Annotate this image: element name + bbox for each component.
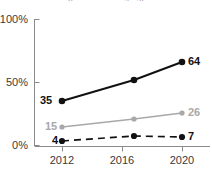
series-1-point xyxy=(179,59,186,66)
line-chart: (percent changing) 100% 50% 0% 2012 xyxy=(0,0,212,173)
series-2-line xyxy=(62,113,182,127)
series-1-label-right: 64 xyxy=(188,56,200,67)
series-2-point xyxy=(131,116,136,121)
y-tick-label-50: 50% xyxy=(0,77,28,88)
series-3-point xyxy=(131,133,137,139)
series-3-label-right: 7 xyxy=(188,131,194,142)
series-2-label-right: 26 xyxy=(188,107,200,118)
series-3-line xyxy=(62,136,182,141)
x-tick-label-2020: 2020 xyxy=(160,155,204,166)
series-2-label-left: 15 xyxy=(45,121,57,132)
plot-area xyxy=(0,0,212,173)
series-1-label-left: 35 xyxy=(40,95,52,106)
x-tick-label-2012: 2012 xyxy=(40,155,84,166)
series-2-point xyxy=(179,110,184,115)
series-1-point xyxy=(59,98,66,105)
series-3-label-left: 4 xyxy=(52,135,58,146)
y-tick-label-0: 0% xyxy=(0,140,28,151)
series-1-point xyxy=(131,77,138,84)
x-tick-label-2016: 2016 xyxy=(100,155,144,166)
series-2-point xyxy=(59,124,64,129)
series-1-line xyxy=(62,62,182,101)
series-3-point xyxy=(179,134,185,140)
series-3-point xyxy=(59,138,65,144)
y-tick-label-100: 100% xyxy=(0,14,28,25)
